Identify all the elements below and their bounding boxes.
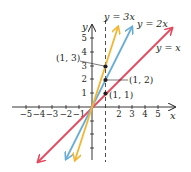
- x-tick-label: 2: [116, 109, 121, 119]
- y-tick-label: 2: [82, 74, 87, 84]
- point-label-1-1: (1, 1): [109, 90, 133, 100]
- equation-label-3x: y = 3x: [103, 11, 135, 22]
- point-1-3: [103, 64, 107, 68]
- equation-label-x: y = x: [155, 42, 181, 53]
- point-label-1-2: (1, 2): [129, 75, 153, 85]
- x-tick-label: 4: [142, 109, 147, 119]
- y-axis: 1 2 3 4 5 y: [81, 21, 94, 160]
- equation-label-2x: y = 2x: [136, 18, 168, 29]
- x-tick-label: 5: [155, 109, 160, 119]
- x-tick-label: −3: [46, 109, 59, 119]
- x-axis-label: x: [170, 110, 176, 121]
- x-tick-label: −5: [20, 109, 33, 119]
- point-label-1-3: (1, 3): [56, 53, 80, 63]
- y-tick-label: 1: [82, 88, 87, 98]
- y-tick-label: 4: [82, 47, 87, 57]
- x-tick-label: 3: [129, 109, 134, 119]
- y-axis-label: y: [81, 21, 88, 32]
- point-1-2: [103, 78, 107, 82]
- x-tick-label: −2: [60, 109, 73, 119]
- x-tick-label: −4: [33, 109, 46, 119]
- y-tick-label: 5: [82, 33, 87, 43]
- linear-functions-graph: −5 −4 −3 −2 −1 2 3 4 5 x 1 2 3 4 5 y: [0, 0, 191, 172]
- x-axis: −5 −4 −3 −2 −1 2 3 4 5 x: [12, 105, 176, 121]
- point-1-1: [103, 91, 107, 95]
